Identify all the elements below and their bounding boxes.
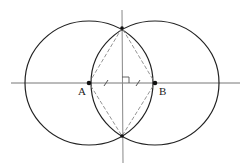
point-a: [87, 81, 92, 86]
right-angle-marker: [122, 77, 129, 83]
diagram-canvas: A B: [0, 0, 250, 168]
point-top-intersection: [120, 26, 124, 30]
perpendicular-bisector: [122, 10, 123, 163]
label-b: B: [159, 85, 166, 97]
label-a: A: [78, 85, 86, 97]
point-b: [153, 81, 158, 86]
point-bottom-intersection: [120, 134, 124, 138]
